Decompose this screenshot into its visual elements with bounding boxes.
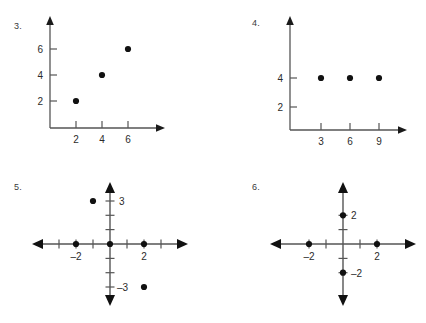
problem-4: 4. 2 4 3 6 9 (213, 0, 426, 162)
problem-6: 6. –2 (213, 162, 426, 323)
data-point (318, 75, 324, 81)
problem-5: 5. (0, 162, 213, 323)
data-point (90, 198, 96, 204)
problem-3: 3. 2 4 6 2 4 (0, 0, 213, 162)
x-tick-label-2: 2 (374, 251, 380, 262)
x-axis-right-arrowhead-icon (177, 239, 188, 249)
y-tick-label-2: 2 (351, 210, 357, 221)
data-point (374, 241, 380, 247)
x-tick-label-6: 6 (347, 136, 353, 147)
y-axis-up-arrowhead-icon (105, 182, 115, 193)
x-tick-label-6: 6 (125, 134, 131, 145)
data-point (99, 72, 105, 78)
y-tick-label-2: 2 (37, 96, 43, 107)
y-tick-label-neg3: –3 (117, 282, 129, 293)
x-tick-label-2: 2 (141, 251, 147, 262)
x-tick-label-neg2: –2 (70, 251, 82, 262)
data-point (73, 241, 79, 247)
x-tick-label-4: 4 (99, 134, 105, 145)
x-tick-label-neg2: –2 (303, 251, 315, 262)
data-point (73, 98, 79, 104)
plot-area-5: –2 2 3 –3 (20, 176, 200, 311)
data-point (125, 46, 131, 52)
y-axis-down-arrowhead-icon (338, 295, 348, 306)
scatter-chart-3: 2 4 6 2 4 6 (28, 10, 188, 150)
plot-area-6: –2 2 2 –2 (258, 176, 426, 311)
y-tick-label-6: 6 (37, 44, 43, 55)
data-point (107, 241, 113, 247)
data-point (141, 284, 147, 290)
y-tick-label-3: 3 (119, 196, 125, 207)
x-tick-label-3: 3 (318, 136, 324, 147)
x-axis-arrowhead-icon (398, 126, 407, 134)
y-axis-arrowhead-icon (46, 16, 54, 25)
data-point (347, 75, 353, 81)
y-axis-down-arrowhead-icon (105, 295, 115, 306)
scatter-chart-6: –2 2 2 –2 (258, 176, 426, 311)
data-point (376, 75, 382, 81)
y-tick-label-neg2: –2 (351, 268, 363, 279)
problem-number-3: 3. (14, 22, 22, 31)
y-tick-label-4: 4 (37, 70, 43, 81)
x-axis-right-arrowhead-icon (405, 239, 416, 249)
data-point (340, 212, 346, 218)
x-axis-left-arrowhead-icon (270, 239, 281, 249)
y-tick-label-4: 4 (277, 73, 283, 84)
scatter-chart-4: 2 4 3 6 9 (266, 8, 426, 153)
plot-area-4: 2 4 3 6 9 (266, 8, 426, 153)
worksheet-page: 3. 2 4 6 2 4 (0, 0, 426, 323)
y-tick-label-2: 2 (277, 102, 283, 113)
data-point (340, 270, 346, 276)
plot-area-3: 2 4 6 2 4 6 (28, 10, 188, 150)
x-axis-arrowhead-icon (156, 124, 165, 132)
data-point (306, 241, 312, 247)
scatter-chart-5: –2 2 3 –3 (20, 176, 200, 311)
x-tick-label-9: 9 (376, 136, 382, 147)
problem-number-4: 4. (252, 19, 260, 28)
data-point (141, 241, 147, 247)
y-axis-up-arrowhead-icon (338, 182, 348, 193)
x-tick-label-2: 2 (73, 134, 79, 145)
x-axis-left-arrowhead-icon (32, 239, 43, 249)
y-axis-arrowhead-icon (286, 16, 294, 25)
